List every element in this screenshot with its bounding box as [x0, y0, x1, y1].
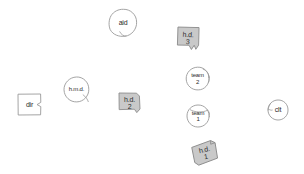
node-hd2[interactable]: h.d. 2 [118, 92, 141, 114]
node-team1-sublabel: 1 [196, 116, 199, 122]
node-hd2-label: h.d. [124, 96, 135, 103]
node-team2-labels: team 2 [191, 72, 204, 84]
node-hd1-labels: h.d. 1 [198, 145, 212, 161]
node-clt-labels: clt [275, 106, 281, 113]
node-hd1-sublabel: 1 [203, 153, 208, 161]
node-clt-label: clt [275, 106, 281, 113]
node-hd3[interactable]: h.d. 3 [175, 25, 200, 50]
node-dir-labels: dir [26, 101, 33, 108]
node-hmd-label: h.m.d. [69, 86, 84, 92]
node-hd3-labels: h.d. 3 [182, 31, 194, 46]
node-team1-labels: team 1 [192, 110, 205, 122]
node-hd2-labels: h.d. 2 [124, 96, 135, 110]
node-aid-labels: aid [119, 19, 128, 26]
node-hd2-sublabel: 2 [128, 103, 132, 110]
node-team1[interactable]: team 1 [186, 104, 210, 128]
node-aid-label: aid [119, 19, 128, 26]
node-clt[interactable]: clt [267, 99, 289, 121]
node-hd1[interactable]: h.d. 1 [190, 139, 220, 168]
node-team2[interactable]: team 2 [185, 66, 210, 91]
node-dir[interactable]: dir [17, 93, 42, 116]
node-hmd[interactable]: h.m.d. [63, 76, 90, 103]
node-hd3-sublabel: 3 [186, 38, 190, 45]
node-hmd-labels: h.m.d. [69, 86, 84, 92]
diagram-canvas: aid h.d. 3 team 2 h.m.d. [0, 0, 304, 174]
node-team2-sublabel: 2 [196, 79, 199, 85]
node-aid[interactable]: aid [108, 8, 138, 38]
node-dir-label: dir [26, 101, 33, 108]
